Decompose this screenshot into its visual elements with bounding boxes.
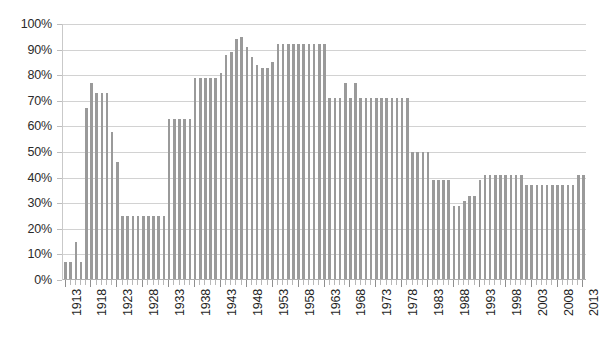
x-tick-label: 1993 — [484, 289, 498, 316]
bar — [292, 44, 295, 280]
x-tick-mark — [329, 280, 330, 285]
bar — [235, 39, 238, 280]
bar — [95, 93, 98, 280]
bar — [271, 62, 274, 280]
x-tick-mark — [453, 280, 454, 287]
x-tick-mark — [147, 280, 148, 285]
x-tick-mark — [375, 280, 376, 287]
x-tick-mark — [572, 280, 573, 285]
x-tick-mark — [567, 280, 568, 285]
x-tick-label: 2003 — [536, 289, 550, 316]
bar — [567, 185, 570, 280]
x-tick-mark — [355, 280, 356, 285]
bar — [168, 119, 171, 280]
bar — [375, 98, 378, 280]
x-tick-mark — [318, 280, 319, 285]
bar — [194, 78, 197, 280]
bar — [422, 152, 425, 280]
x-tick-mark — [287, 280, 288, 285]
y-tick-label: 30% — [28, 196, 52, 210]
x-tick-mark — [443, 280, 444, 285]
bar — [458, 206, 461, 280]
bar — [302, 44, 305, 280]
x-tick-label: 2013 — [587, 289, 601, 316]
x-tick-mark — [230, 280, 231, 285]
bar — [541, 185, 544, 280]
bar — [453, 206, 456, 280]
x-tick-mark — [215, 280, 216, 285]
x-axis: 1913191819231928193319381943194819531958… — [62, 280, 585, 339]
x-tick-label: 2008 — [562, 289, 576, 316]
bar — [572, 185, 575, 280]
x-tick-label: 1913 — [70, 289, 84, 316]
x-tick-mark — [557, 280, 558, 287]
bar — [515, 175, 518, 280]
x-tick-label: 1943 — [225, 289, 239, 316]
x-tick-label: 1963 — [329, 289, 343, 316]
x-tick-mark — [127, 280, 128, 285]
x-tick-mark — [365, 280, 366, 285]
bar — [536, 185, 539, 280]
bar — [463, 201, 466, 280]
bar — [479, 180, 482, 280]
bar — [225, 55, 228, 280]
y-tick-label: 20% — [28, 222, 52, 236]
x-tick-mark — [298, 280, 299, 287]
x-tick-label: 1953 — [277, 289, 291, 316]
bar — [142, 216, 145, 280]
x-tick-mark — [562, 280, 563, 285]
bar — [230, 52, 233, 280]
bar — [111, 132, 114, 280]
bar — [163, 216, 166, 280]
bar — [365, 98, 368, 280]
y-tick-label: 100% — [21, 17, 52, 31]
bar — [251, 57, 254, 280]
bar — [173, 119, 176, 280]
x-tick-mark — [370, 280, 371, 285]
x-tick-mark — [137, 280, 138, 285]
x-tick-mark — [422, 280, 423, 285]
bar — [328, 98, 331, 280]
bar — [344, 83, 347, 280]
x-tick-mark — [158, 280, 159, 285]
x-tick-label: 1978 — [406, 289, 420, 316]
x-tick-mark — [210, 280, 211, 285]
x-tick-mark — [536, 280, 537, 285]
x-tick-mark — [85, 280, 86, 285]
x-tick-mark — [80, 280, 81, 285]
bar — [90, 83, 93, 280]
x-tick-mark — [344, 280, 345, 285]
x-tick-mark — [101, 280, 102, 285]
x-tick-mark — [241, 280, 242, 285]
y-tick-label: 80% — [28, 68, 52, 82]
bar — [396, 98, 399, 280]
gridline — [63, 24, 586, 25]
bar — [240, 37, 243, 280]
x-tick-mark — [417, 280, 418, 285]
x-tick-mark — [500, 280, 501, 285]
x-tick-mark — [401, 280, 402, 287]
bar — [530, 185, 533, 280]
bar — [561, 185, 564, 280]
x-tick-mark — [235, 280, 236, 285]
bar — [204, 78, 207, 280]
x-tick-mark — [111, 280, 112, 285]
y-tick-label: 70% — [28, 94, 52, 108]
bar — [152, 216, 155, 280]
bar — [75, 242, 78, 280]
bar — [546, 185, 549, 280]
bar — [101, 93, 104, 280]
bar — [427, 152, 430, 280]
bar — [214, 78, 217, 280]
x-tick-mark — [541, 280, 542, 285]
x-tick-mark — [396, 280, 397, 285]
bar — [473, 196, 476, 280]
bar — [504, 175, 507, 280]
x-tick-mark — [463, 280, 464, 285]
x-tick-mark — [194, 280, 195, 287]
bar — [199, 78, 202, 280]
x-tick-label: 1923 — [121, 289, 135, 316]
x-tick-mark — [70, 280, 71, 285]
bar-chart: 0%10%20%30%40%50%60%70%80%90%100% 191319… — [0, 0, 604, 339]
x-tick-mark — [65, 280, 66, 287]
